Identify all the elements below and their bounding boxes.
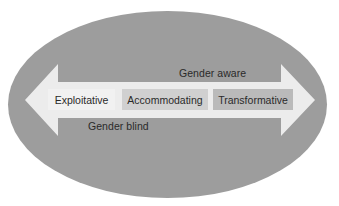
gender-blind-label: Gender blind [88, 121, 149, 132]
stage-exploitative: Exploitative [48, 89, 115, 110]
gender-continuum-diagram: Gender aware Exploitative Accommodating … [0, 0, 339, 206]
stage-accommodating: Accommodating [122, 89, 208, 110]
stage-transformative: Transformative [213, 89, 293, 110]
gender-aware-label: Gender aware [179, 68, 246, 79]
